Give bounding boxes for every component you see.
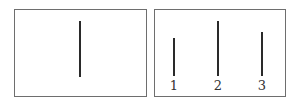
line-label-3: 3 bbox=[258, 79, 266, 92]
comparison-line-2 bbox=[217, 21, 219, 76]
line-label-1: 1 bbox=[170, 79, 178, 92]
reference-line bbox=[79, 21, 81, 77]
reference-panel bbox=[14, 9, 147, 97]
line-label-2: 2 bbox=[214, 79, 222, 92]
comparison-line-1 bbox=[173, 38, 175, 76]
comparison-panel: 123 bbox=[154, 9, 286, 97]
comparison-line-3 bbox=[261, 32, 263, 76]
